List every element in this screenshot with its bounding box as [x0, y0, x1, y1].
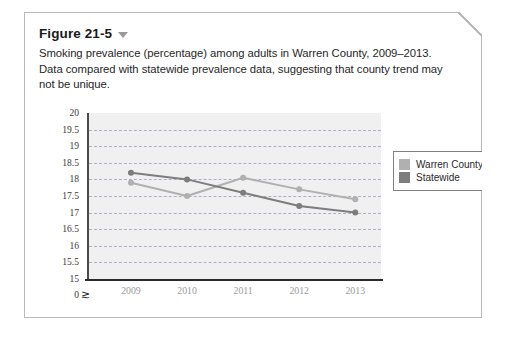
x-tick-label: 2013 [345, 285, 365, 296]
x-tick-label: 2012 [289, 285, 309, 296]
data-point-marker [184, 193, 190, 199]
y-tick-label: 15.5 [62, 258, 79, 268]
y-tick-label: 16 [69, 241, 79, 251]
chart-legend: Warren CountyStatewide [393, 151, 491, 191]
legend-swatch [399, 172, 410, 183]
y-tick-label: 17.5 [62, 191, 79, 201]
chart-region: 2019.51918.51817.51716.51615.5150 ≳ 2009… [39, 113, 469, 305]
x-tick-label: 2009 [121, 285, 141, 296]
figure-header: Figure 21-5 Smoking prevalence (percenta… [39, 26, 467, 93]
y-tick-label: 15 [69, 274, 79, 284]
data-point-marker [296, 186, 302, 192]
y-tick-label: 20 [69, 108, 79, 118]
y-tick-label: 19.5 [62, 125, 79, 135]
data-point-marker [128, 180, 134, 186]
data-point-marker [240, 190, 246, 196]
data-point-marker [296, 203, 302, 209]
legend-label: Warren County [416, 159, 483, 170]
figure-card: Figure 21-5 Smoking prevalence (percenta… [24, 12, 482, 318]
y-tick-label: 16.5 [62, 224, 79, 234]
figure-title-row: Figure 21-5 [39, 26, 467, 41]
y-tick-label: 18.5 [62, 158, 79, 168]
data-point-marker [352, 210, 358, 216]
data-point-marker [240, 175, 246, 181]
x-axis-line [85, 279, 383, 281]
legend-item[interactable]: Statewide [399, 172, 483, 183]
y-tick-label: 19 [69, 141, 79, 151]
chevron-down-icon[interactable] [118, 32, 128, 38]
chart-series-layer [87, 113, 381, 279]
legend-label: Statewide [416, 172, 460, 183]
figure-caption: Smoking prevalence (percentage) among ad… [39, 46, 457, 93]
x-tick-label: 2010 [177, 285, 197, 296]
y-tick-label-zero: 0 [74, 290, 79, 300]
legend-item[interactable]: Warren County [399, 159, 483, 170]
y-axis: 2019.51918.51817.51716.51615.5150 [39, 113, 83, 285]
legend-swatch [399, 159, 410, 170]
data-point-marker [184, 176, 190, 182]
y-tick-label: 18 [69, 175, 79, 185]
series-line [131, 178, 355, 200]
x-tick-label: 2011 [234, 285, 253, 296]
x-axis: 20092010201120122013 [87, 285, 381, 303]
y-tick-label: 17 [69, 208, 79, 218]
data-point-marker [128, 170, 134, 176]
page-title: Figure 21-5 [39, 26, 112, 41]
data-point-marker [352, 196, 358, 202]
